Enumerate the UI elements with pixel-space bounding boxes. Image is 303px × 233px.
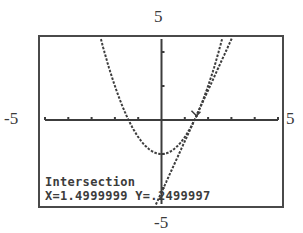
ymax-label: 5	[154, 8, 163, 25]
y-value: Y=.2499997	[135, 189, 210, 203]
x-value: X=1.4999999	[45, 189, 128, 203]
intersection-title: Intersection	[45, 176, 135, 188]
ymin-label: -5	[154, 214, 168, 231]
xmin-label: -5	[4, 110, 18, 127]
calculator-graph-screen: Intersection X=1.4999999 Y=.2499997	[38, 35, 284, 208]
intersection-values: X=1.4999999 Y=.2499997	[45, 190, 211, 202]
xmax-label: 5	[286, 110, 295, 127]
